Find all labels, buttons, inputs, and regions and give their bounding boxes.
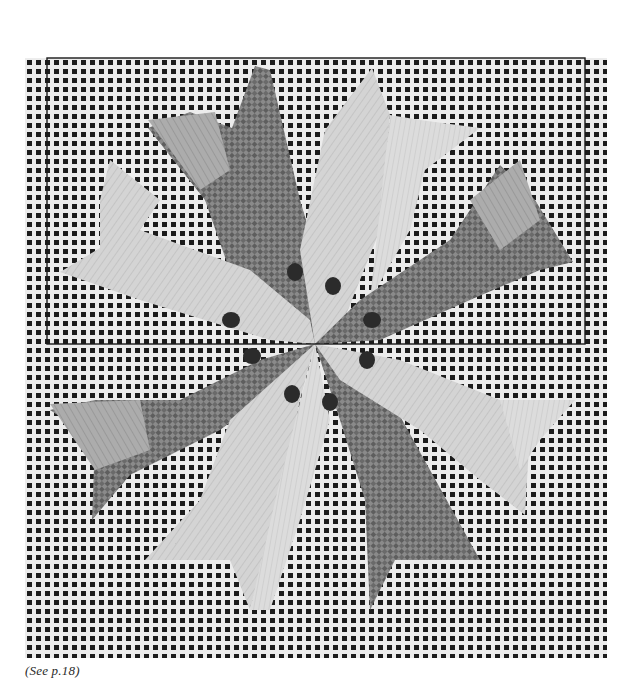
accent-dot <box>322 393 338 411</box>
accent-dot <box>359 351 375 369</box>
accent-dot <box>363 312 381 328</box>
accent-dot <box>287 263 303 281</box>
accent-dot <box>284 385 300 403</box>
accent-dot <box>325 277 341 295</box>
needlepoint-figure <box>0 0 634 697</box>
accent-dot <box>243 348 261 364</box>
accent-dot <box>222 312 240 328</box>
figure-caption: (See p.18) <box>25 663 80 679</box>
